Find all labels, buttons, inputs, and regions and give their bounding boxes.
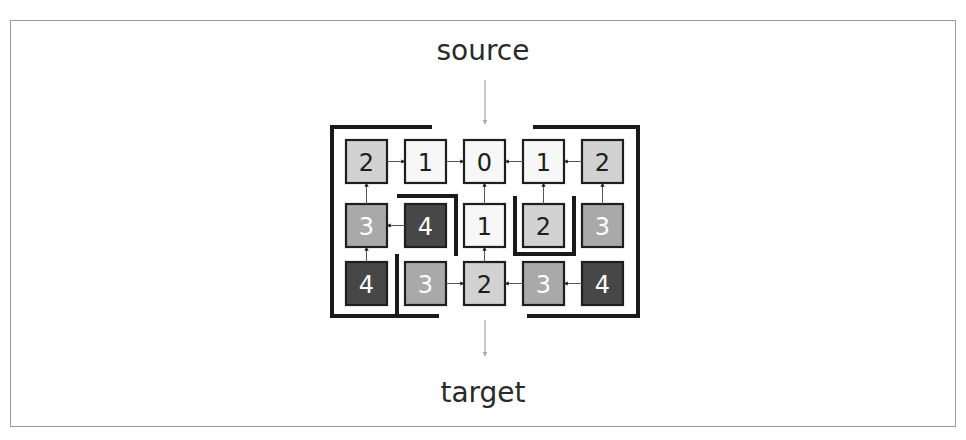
grid-cell: 4 — [582, 262, 623, 305]
grid-cell: 3 — [582, 204, 623, 247]
grid-cell: 3 — [405, 262, 446, 305]
cell-distance-value: 1 — [536, 149, 551, 177]
cell-distance-value: 2 — [536, 213, 551, 241]
cell-distance-value: 3 — [595, 213, 610, 241]
grid-cell: 4 — [405, 204, 446, 247]
cell-distance-value: 2 — [359, 149, 374, 177]
grid-cell: 3 — [523, 262, 564, 305]
grid-cell: 1 — [405, 140, 446, 183]
cell-distance-value: 4 — [418, 213, 433, 241]
cell-distance-value: 2 — [477, 271, 492, 299]
grid-cell: 3 — [346, 204, 387, 247]
cell-distance-value: 3 — [536, 271, 551, 299]
grid-cells: 210123412343234 — [346, 140, 623, 305]
grid-cell: 2 — [346, 140, 387, 183]
grid-cell: 1 — [464, 204, 505, 247]
cell-distance-value: 1 — [477, 213, 492, 241]
grid-cell: 1 — [523, 140, 564, 183]
cell-distance-value: 1 — [418, 149, 433, 177]
cell-distance-value: 3 — [418, 271, 433, 299]
cell-distance-value: 4 — [359, 271, 374, 299]
cell-distance-value: 3 — [359, 213, 374, 241]
grid-cell: 2 — [523, 204, 564, 247]
bfs-grid-diagram: 210123412343234 — [0, 0, 966, 440]
cell-distance-value: 4 — [595, 271, 610, 299]
cell-distance-value: 2 — [595, 149, 610, 177]
grid-cell: 2 — [582, 140, 623, 183]
grid-cell: 2 — [464, 262, 505, 305]
cell-distance-value: 0 — [477, 149, 492, 177]
grid-cell: 4 — [346, 262, 387, 305]
grid-cell: 0 — [464, 140, 505, 183]
